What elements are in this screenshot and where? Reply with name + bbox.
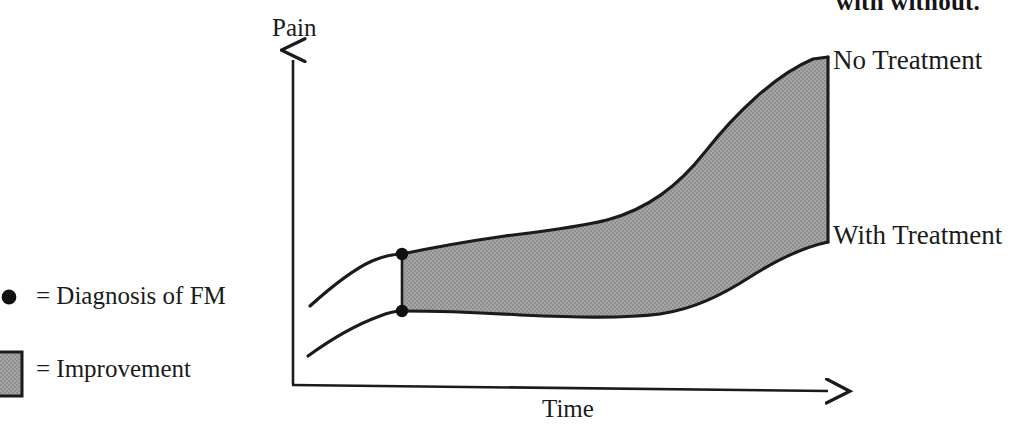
x-axis [292, 385, 828, 391]
y-axis-label: Pain [272, 15, 316, 40]
curve-pre-diagnosis-lower [308, 311, 402, 356]
legend-dot-marker [2, 290, 17, 305]
legend-item-improvement-label: = Improvement [36, 356, 191, 381]
curve-label-no-treatment: No Treatment [833, 47, 982, 74]
curve-label-with-treatment: With Treatment [833, 222, 1002, 249]
x-axis-label: Time [542, 396, 594, 421]
diagnosis-dot-upper [396, 248, 408, 260]
legend-swatch-marker [0, 352, 22, 396]
legend-item-diagnosis-label: = Diagnosis of FM [36, 283, 226, 308]
diagnosis-dot-lower [396, 305, 408, 317]
figure-page: with without. [0, 0, 1016, 429]
curve-pre-diagnosis-upper [310, 254, 402, 306]
